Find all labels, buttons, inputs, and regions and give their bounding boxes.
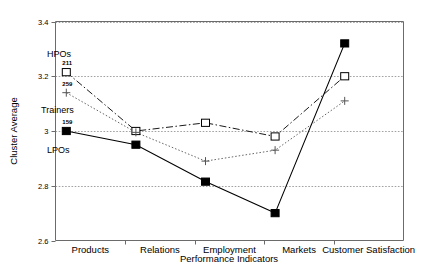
data-point-marker	[341, 73, 349, 80]
x-category-label: Markets	[282, 244, 316, 255]
series-line-lpos	[66, 43, 344, 213]
point-label-trainers: 259	[62, 81, 73, 87]
x-category-label: Customer Satisfaction	[322, 244, 415, 255]
data-point-marker	[271, 146, 279, 154]
plot-frame	[56, 22, 404, 241]
y-tick-label: 2.8	[38, 182, 48, 191]
y-tick-label: 3.2	[38, 72, 48, 81]
data-point-marker	[62, 89, 70, 97]
data-point-marker	[271, 133, 279, 140]
data-point-marker	[341, 40, 349, 47]
data-point-marker	[202, 157, 210, 165]
x-axis-title: Performance Indicators	[180, 253, 278, 264]
point-label-hpos: 211	[62, 60, 72, 66]
x-category-label: Products	[72, 244, 110, 255]
data-point-marker	[202, 119, 210, 126]
data-point-marker	[341, 97, 349, 105]
data-point-marker	[62, 127, 70, 134]
series-lines	[66, 43, 344, 213]
series-label-trainers: Trainers	[41, 105, 74, 115]
y-tick-label: 3.4	[38, 18, 48, 27]
series-label-lpos: LPOs	[47, 145, 70, 155]
series-line-trainers	[66, 93, 344, 161]
series-label-hpos: HPOs	[47, 49, 72, 59]
data-point-marker	[202, 178, 210, 185]
data-point-marker	[132, 141, 140, 148]
y-tick-label: 3	[44, 127, 48, 136]
data-point-marker	[62, 69, 70, 76]
point-label-lpos: 159	[62, 119, 73, 125]
y-axis-title: Cluster Average	[8, 97, 19, 164]
y-tick-label: 2.6	[38, 237, 48, 246]
x-category-label: Relations	[140, 244, 180, 255]
cluster-average-line-chart: 2.62.833.23.4 211259159 ProductsRelation…	[0, 0, 431, 273]
gridlines	[56, 23, 404, 187]
chart-container: 2.62.833.23.4 211259159 ProductsRelation…	[0, 0, 431, 273]
data-point-marker	[271, 210, 279, 217]
